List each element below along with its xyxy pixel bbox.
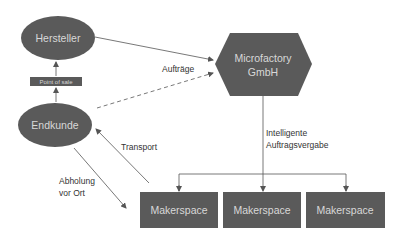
intelligente-label-line2: Auftragsvergabe [266, 140, 329, 150]
makerspace-1-label: Makerspace [150, 204, 207, 216]
point-of-sale-label: Point of sale [39, 79, 73, 85]
endkunde-label: Endkunde [31, 119, 78, 131]
edge-branch-makerspaces [179, 174, 346, 191]
intelligente-label-line1: Intelligente [266, 128, 307, 138]
edge-hersteller-to-microfactory [95, 37, 213, 60]
edge-endkunde-to-microfactory-dashed [97, 73, 213, 108]
node-makerspace-1: Makerspace [140, 192, 218, 228]
node-endkunde: Endkunde [18, 103, 92, 147]
node-point-of-sale: Point of sale [30, 77, 82, 86]
makerspace-2-label: Makerspace [233, 204, 290, 216]
transport-label: Transport [121, 142, 158, 152]
node-hersteller: Hersteller [21, 16, 95, 60]
makerspace-3-label: Makerspace [316, 204, 373, 216]
node-makerspace-2: Makerspace [223, 192, 301, 228]
microfactory-label-line2: GmbH [248, 66, 278, 78]
node-microfactory: Microfactory GmbH [215, 33, 312, 96]
microfactory-label-line1: Microfactory [234, 52, 292, 64]
diagram-canvas: Hersteller Point of sale Endkunde Microf… [0, 0, 400, 239]
abholung-label-line2: vor Ort [59, 188, 86, 198]
edge-transport [96, 129, 149, 183]
hersteller-label: Hersteller [36, 32, 81, 44]
abholung-label-line1: Abholung [59, 176, 95, 186]
node-makerspace-3: Makerspace [306, 192, 385, 228]
auftraege-label: Aufträge [162, 64, 194, 74]
